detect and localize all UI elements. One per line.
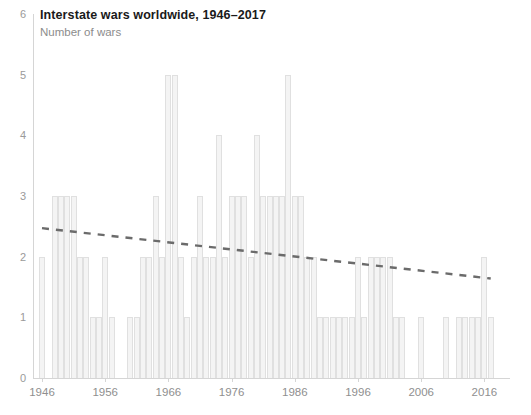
bar (96, 317, 102, 378)
x-tick-mark (168, 378, 169, 382)
x-tick-mark (105, 378, 106, 382)
x-tick-mark (421, 378, 422, 382)
bar (52, 196, 58, 378)
bar (374, 257, 380, 378)
y-tick-label: 0 (20, 373, 26, 384)
bar (267, 196, 273, 378)
bar (172, 75, 178, 378)
bar-series (33, 14, 510, 378)
bar (197, 196, 203, 378)
bar (393, 317, 399, 378)
bar (109, 317, 115, 378)
bar (323, 317, 329, 378)
bar (71, 196, 77, 378)
x-tick-label: 2006 (408, 386, 434, 398)
y-tick-label: 6 (20, 9, 26, 20)
bar (153, 196, 159, 378)
x-tick-mark (358, 378, 359, 382)
bar (285, 75, 291, 378)
bar (102, 257, 108, 378)
bar (355, 257, 361, 378)
bar (279, 196, 285, 378)
bar (235, 196, 241, 378)
x-tick-mark (295, 378, 296, 382)
bar (311, 257, 317, 378)
bar (210, 257, 216, 378)
x-tick-label: 1996 (345, 386, 371, 398)
bar (298, 196, 304, 378)
bar (254, 135, 260, 378)
x-tick-mark (42, 378, 43, 382)
y-tick-label: 2 (20, 252, 26, 263)
bar (241, 196, 247, 378)
plot-area: 0123456 19461956196619761986199620062016 (33, 14, 510, 378)
bar (368, 257, 374, 378)
x-tick-mark (232, 378, 233, 382)
bar (134, 317, 140, 378)
bar (469, 317, 475, 378)
bar (304, 257, 310, 378)
bar (165, 75, 171, 378)
bar (418, 317, 424, 378)
x-tick-mark (484, 378, 485, 382)
bar (488, 317, 494, 378)
bar (361, 317, 367, 378)
bar (317, 317, 323, 378)
bar (146, 257, 152, 378)
bar (462, 317, 468, 378)
bar (292, 196, 298, 378)
bar (399, 317, 405, 378)
bar (481, 257, 487, 378)
bar (330, 317, 336, 378)
x-tick-label: 2016 (472, 386, 498, 398)
x-tick-label: 1976 (219, 386, 245, 398)
bar (77, 257, 83, 378)
bar (140, 257, 146, 378)
bar (64, 196, 70, 378)
bar (475, 317, 481, 378)
bar (349, 317, 355, 378)
x-tick-label: 1966 (156, 386, 182, 398)
bar (159, 257, 165, 378)
bar (229, 196, 235, 378)
x-tick-label: 1946 (29, 386, 55, 398)
x-tick-label: 1956 (92, 386, 118, 398)
bar (336, 317, 342, 378)
x-tick-label: 1986 (282, 386, 308, 398)
bar (222, 257, 228, 378)
y-tick-label: 1 (20, 312, 26, 323)
bar (184, 317, 190, 378)
y-tick-label: 5 (20, 70, 26, 81)
bar (127, 317, 133, 378)
bar (178, 257, 184, 378)
y-tick-label: 3 (20, 191, 26, 202)
bar (90, 317, 96, 378)
bar (58, 196, 64, 378)
chart-container: Interstate wars worldwide, 1946–2017 Num… (0, 0, 531, 415)
y-tick-label: 4 (20, 130, 26, 141)
bar (443, 317, 449, 378)
bar (456, 317, 462, 378)
bar (203, 257, 209, 378)
bar (342, 317, 348, 378)
bar (248, 257, 254, 378)
bar (216, 135, 222, 378)
bar (83, 257, 89, 378)
bar (39, 257, 45, 378)
bar (191, 257, 197, 378)
bar (273, 196, 279, 378)
bar (380, 257, 386, 378)
bar (387, 257, 393, 378)
bar (260, 196, 266, 378)
